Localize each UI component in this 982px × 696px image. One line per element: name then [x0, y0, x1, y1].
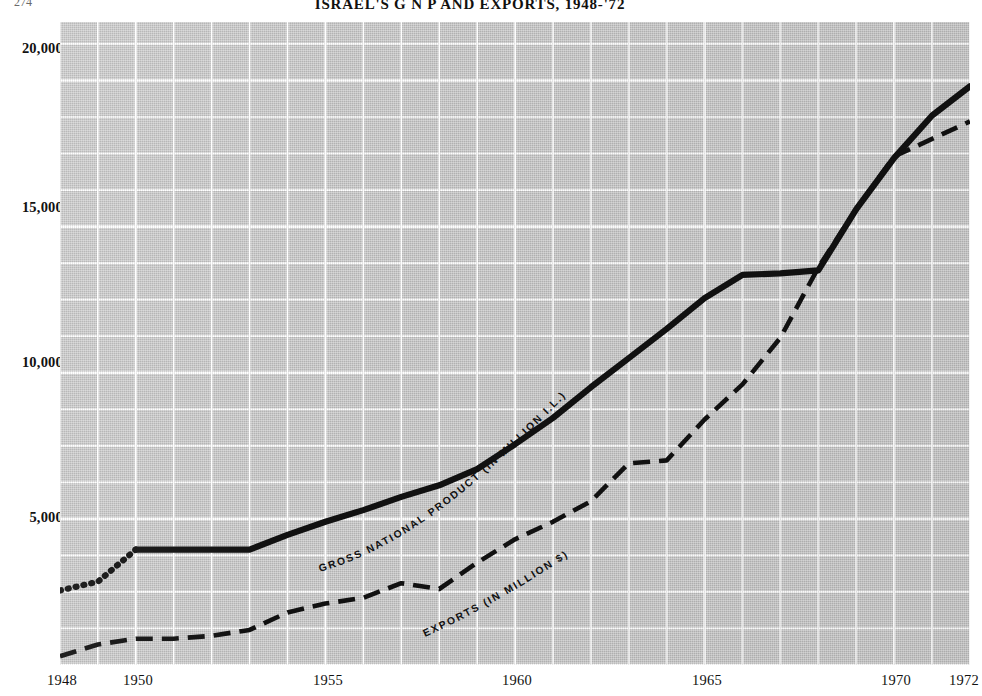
- y-axis-left-tick-5000: 5,000: [29, 509, 63, 526]
- x-axis-tick-1955: 1955: [313, 672, 343, 689]
- exports-curve-label-text: EXPORTS (IN MILLION $): [421, 548, 570, 639]
- x-axis-tick-1950: 1950: [123, 672, 153, 689]
- x-axis-tick-1965: 1965: [692, 672, 722, 689]
- x-axis-tick-1960: 1960: [502, 672, 532, 689]
- y-axis-left-tick-20000: 20,000: [22, 40, 63, 57]
- y-axis-left-tick-10000: 10,000: [22, 354, 63, 371]
- x-axis-tick-1970: 1970: [881, 672, 911, 689]
- gnp-curve-label: GROSS NATIONAL PRODUCT (IN MILLION I.L.): [317, 389, 568, 574]
- x-axis-tick-1948: 1948: [47, 672, 77, 689]
- y-axis-left-tick-15000: 15,000: [22, 199, 63, 216]
- x-axis-tick-1972: 1972: [949, 672, 979, 689]
- chart-title: ISRAEL'S G N P AND EXPORTS, 1948-'72: [200, 0, 740, 13]
- page-folio: 274: [14, 0, 32, 10]
- gnp-curve-label-text: GROSS NATIONAL PRODUCT (IN MILLION I.L.): [317, 389, 568, 574]
- exports-curve-label: EXPORTS (IN MILLION $): [421, 548, 570, 639]
- series-inline-labels: GROSS NATIONAL PRODUCT (IN MILLION I.L.)…: [60, 22, 970, 665]
- chart-figure: 274 ISRAEL'S G N P AND EXPORTS, 1948-'72…: [0, 0, 982, 696]
- plot-area: GROSS NATIONAL PRODUCT (IN MILLION I.L.)…: [60, 22, 970, 665]
